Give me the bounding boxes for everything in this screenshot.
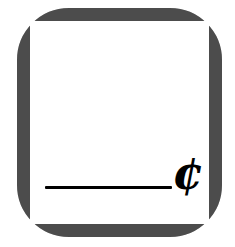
cent-note-icon: ¢ (0, 0, 235, 247)
amount-fill-in-rule (45, 186, 172, 189)
cent-sign-icon: ¢ (172, 148, 206, 198)
